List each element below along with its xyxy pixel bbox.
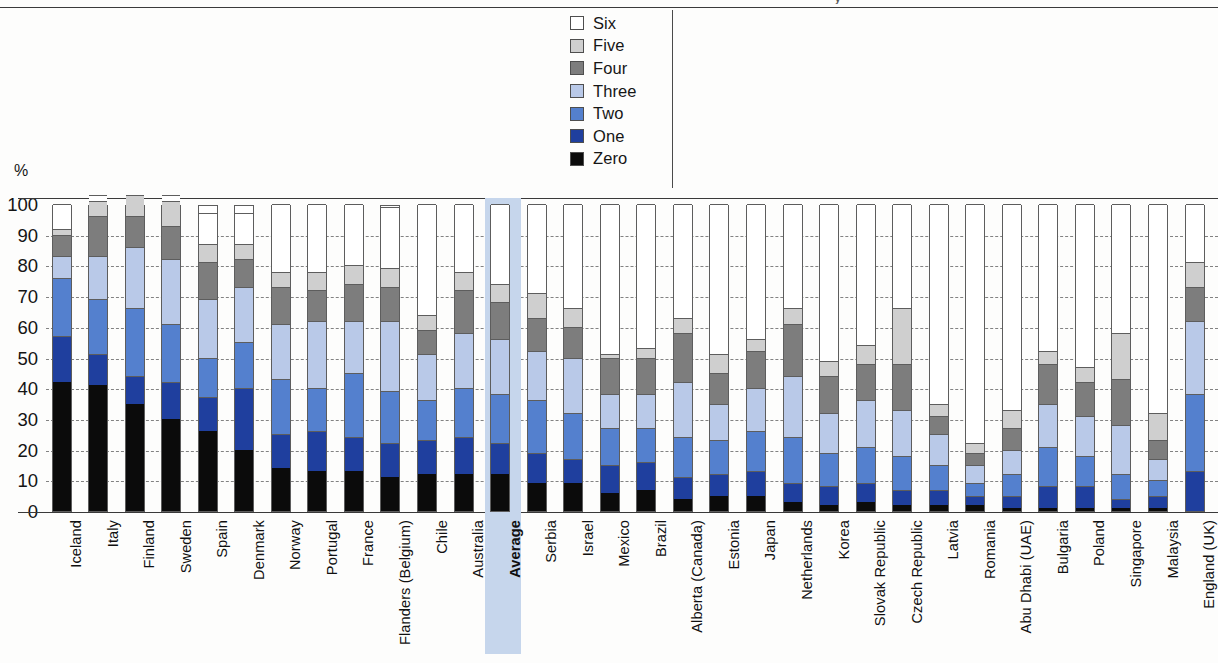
bar-group[interactable] — [777, 205, 814, 512]
bar-segment-six[interactable] — [710, 204, 728, 354]
bar-group[interactable] — [594, 205, 631, 512]
bar-segment-six[interactable] — [1149, 204, 1167, 413]
bar-segment-five[interactable] — [53, 229, 71, 235]
bar-segment-two[interactable] — [272, 379, 290, 434]
bar-segment-six[interactable] — [1186, 204, 1204, 262]
bar-segment-two[interactable] — [564, 413, 582, 459]
bar-segment-three[interactable] — [1076, 416, 1094, 456]
bar-segment-five[interactable] — [89, 201, 107, 216]
bar-segment-one[interactable] — [893, 490, 911, 505]
bar-segment-three[interactable] — [418, 354, 436, 400]
bar-segment-four[interactable] — [272, 287, 290, 324]
bar-segment-two[interactable] — [381, 391, 399, 443]
bar-segment-four[interactable] — [418, 330, 436, 355]
bar-segment-five[interactable] — [820, 361, 838, 376]
bar-segment-five[interactable] — [455, 272, 473, 290]
bar-segment-six[interactable] — [308, 204, 326, 272]
bar-segment-five[interactable] — [491, 284, 509, 302]
bar-segment-four[interactable] — [966, 453, 984, 465]
bar-segment-one[interactable] — [930, 490, 948, 505]
stacked-bar[interactable] — [490, 205, 510, 512]
bar-segment-five[interactable] — [345, 265, 363, 283]
bar-segment-zero[interactable] — [418, 474, 436, 511]
legend-item[interactable]: Six — [570, 12, 688, 35]
stacked-bar[interactable] — [234, 205, 254, 512]
bar-segment-three[interactable] — [491, 339, 509, 394]
bar-segment-six[interactable] — [1039, 204, 1057, 351]
bar-segment-two[interactable] — [528, 400, 546, 452]
bar-segment-five[interactable] — [418, 315, 436, 330]
bar-segment-zero[interactable] — [1149, 508, 1167, 511]
stacked-bar[interactable] — [1038, 205, 1058, 512]
bar-segment-one[interactable] — [710, 474, 728, 495]
bar-segment-five[interactable] — [272, 272, 290, 287]
bar-segment-five[interactable] — [710, 354, 728, 372]
bar-segment-one[interactable] — [857, 483, 875, 501]
stacked-bar[interactable] — [563, 205, 583, 512]
bar-segment-one[interactable] — [272, 434, 290, 468]
bar-segment-three[interactable] — [1003, 450, 1021, 475]
bar-segment-three[interactable] — [126, 247, 144, 308]
legend-item[interactable]: Two — [570, 102, 688, 125]
bar-segment-four[interactable] — [491, 302, 509, 339]
bar-segment-two[interactable] — [1149, 480, 1167, 495]
bar-segment-five[interactable] — [674, 318, 692, 333]
bar-segment-zero[interactable] — [1076, 508, 1094, 511]
bar-segment-five[interactable] — [747, 339, 765, 351]
bar-segment-two[interactable] — [89, 299, 107, 354]
bar-segment-two[interactable] — [637, 428, 655, 462]
bar-segment-six[interactable] — [747, 204, 765, 339]
bar-segment-six[interactable] — [637, 204, 655, 348]
bar-segment-one[interactable] — [1112, 499, 1130, 508]
bar-segment-two[interactable] — [674, 437, 692, 477]
bar-segment-two[interactable] — [126, 308, 144, 376]
bar-segment-four[interactable] — [1186, 287, 1204, 321]
bar-segment-zero[interactable] — [820, 505, 838, 511]
bar-segment-two[interactable] — [857, 447, 875, 484]
stacked-bar[interactable] — [1075, 205, 1095, 512]
bar-segment-zero[interactable] — [747, 496, 765, 511]
legend-item[interactable]: Three — [570, 80, 688, 103]
bar-segment-five[interactable] — [199, 244, 217, 262]
bar-group[interactable] — [631, 205, 668, 512]
bar-segment-two[interactable] — [308, 388, 326, 431]
bar-segment-four[interactable] — [564, 327, 582, 358]
bar-segment-three[interactable] — [820, 413, 838, 453]
bar-segment-zero[interactable] — [784, 502, 802, 511]
bar-segment-zero[interactable] — [1039, 508, 1057, 511]
stacked-bar[interactable] — [454, 205, 474, 512]
bar-segment-five[interactable] — [1003, 410, 1021, 428]
bar-segment-zero[interactable] — [528, 483, 546, 511]
bar-segment-six[interactable] — [601, 204, 619, 354]
bar-group[interactable] — [119, 205, 156, 512]
bar-segment-one[interactable] — [564, 459, 582, 484]
bar-segment-zero[interactable] — [308, 471, 326, 511]
bar-segment-zero[interactable] — [235, 450, 253, 511]
bar-segment-five[interactable] — [966, 443, 984, 452]
bar-segment-two[interactable] — [784, 437, 802, 483]
stacked-bar[interactable] — [1002, 205, 1022, 512]
bar-segment-one[interactable] — [601, 465, 619, 493]
bar-segment-five[interactable] — [637, 348, 655, 357]
bar-segment-four[interactable] — [126, 216, 144, 247]
bar-segment-four[interactable] — [53, 235, 71, 256]
bar-segment-five[interactable] — [857, 345, 875, 363]
stacked-bar[interactable] — [417, 205, 437, 512]
bar-segment-four[interactable] — [637, 358, 655, 395]
bar-segment-one[interactable] — [126, 376, 144, 404]
stacked-bar[interactable] — [600, 205, 620, 512]
bar-segment-three[interactable] — [1112, 425, 1130, 474]
stacked-bar[interactable] — [783, 205, 803, 512]
bar-segment-four[interactable] — [345, 284, 363, 321]
bar-segment-zero[interactable] — [199, 431, 217, 511]
bar-segment-six[interactable] — [893, 204, 911, 308]
stacked-bar[interactable] — [271, 205, 291, 512]
bar-segment-six[interactable] — [162, 195, 180, 201]
stacked-bar[interactable] — [1148, 205, 1168, 512]
bar-segment-zero[interactable] — [491, 474, 509, 511]
bar-segment-one[interactable] — [308, 431, 326, 471]
bar-group[interactable] — [704, 205, 741, 512]
bar-segment-two[interactable] — [1039, 447, 1057, 487]
bar-segment-six[interactable] — [491, 204, 509, 284]
bar-segment-five[interactable] — [930, 404, 948, 416]
